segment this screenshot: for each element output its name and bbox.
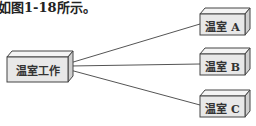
child-label-a: 温室 A	[200, 18, 245, 34]
connector-b	[70, 64, 200, 66]
connector-c	[70, 70, 200, 105]
child-label-c: 温室 C	[200, 100, 245, 116]
connector-a	[70, 24, 200, 63]
child-label-b: 温室 B	[200, 58, 245, 74]
root-label: 温室工作	[7, 62, 68, 78]
